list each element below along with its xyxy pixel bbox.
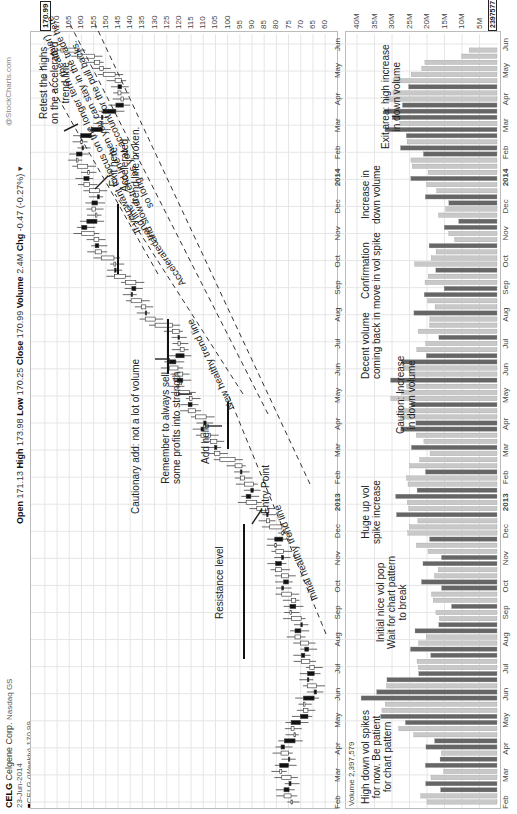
- price-tick: 90: [247, 20, 256, 29]
- volume-tick: 35M: [370, 13, 379, 29]
- x-tick: Feb: [333, 795, 342, 809]
- price-tick: 160: [76, 16, 85, 29]
- x-tick: Apr: [501, 742, 510, 754]
- x-tick: Mar: [333, 118, 342, 132]
- x-tick: 2014: [501, 169, 510, 187]
- x-tick: May: [333, 63, 342, 78]
- x-tick: Feb: [333, 146, 342, 160]
- x-tick: Oct: [333, 255, 342, 267]
- volume-tick: 15M: [440, 13, 449, 29]
- price-tick: 120: [174, 16, 183, 29]
- x-tick: Feb: [501, 795, 510, 809]
- price-tick: 100: [223, 16, 232, 29]
- x-tick: Mar: [501, 768, 510, 782]
- note-vol-caution: Caution: Increasein down volume: [395, 356, 417, 434]
- x-tick: Dec: [333, 199, 342, 213]
- volume-tick: 10M: [457, 13, 466, 29]
- note-vol-initial: Initial nice vol popWait for chart patte…: [375, 556, 408, 649]
- x-tick: Aug: [501, 307, 510, 321]
- price-tick: 110: [198, 16, 207, 29]
- x-tick: 2013: [333, 493, 342, 511]
- price-tick: 125: [162, 16, 171, 29]
- x-tick: Sep: [501, 280, 510, 294]
- x-tick: Dec: [501, 199, 510, 213]
- x-tick: Oct: [333, 580, 342, 592]
- note-vol-increase-down: Increase indown volume: [360, 165, 382, 224]
- note-vol-high-down: High down vol spikesfor now. Be patientf…: [360, 710, 393, 804]
- x-tick: May: [333, 713, 342, 728]
- volume-tick: 40M: [352, 13, 361, 29]
- x-tick: Jun: [501, 363, 510, 376]
- price-tick: 140: [125, 16, 134, 29]
- x-tick: Jul: [333, 663, 342, 673]
- x-tick: May: [501, 388, 510, 403]
- x-tick: Jun: [333, 38, 342, 51]
- x-tick: Mar: [501, 118, 510, 132]
- x-tick: Mar: [501, 443, 510, 457]
- note-vol-decent: Decent volumecoming back in: [360, 312, 382, 379]
- x-tick: Mar: [333, 443, 342, 457]
- note-remember: Remember to always sellsome profits into…: [160, 372, 182, 484]
- x-tick: May: [501, 63, 510, 78]
- x-tick: Nov: [501, 551, 510, 565]
- price-tick: 85: [259, 20, 268, 29]
- volume-tick: 5M: [475, 18, 484, 29]
- volume-label: Volume 2,397,579: [347, 742, 356, 807]
- chart-svg: [0, 0, 517, 814]
- price-tick: 75: [284, 20, 293, 29]
- chart-canvas: CELG Celgene Corp. Nasdaq GS 23-Jun-2014…: [0, 0, 517, 814]
- price-tick: 70: [296, 20, 305, 29]
- x-tick: Jul: [501, 663, 510, 673]
- x-tick: Nov: [333, 226, 342, 240]
- x-tick: Nov: [501, 226, 510, 240]
- x-tick: Nov: [333, 551, 342, 565]
- note-vol-huge: Huge up volspike increase: [360, 480, 382, 544]
- volume-tick: 25M: [405, 13, 414, 29]
- note-vol-confirmation: Confirmationmove in vol spike: [360, 232, 382, 309]
- x-tick: Apr: [333, 93, 342, 105]
- x-tick: Apr: [501, 418, 510, 430]
- x-tick: Jun: [333, 363, 342, 376]
- price-tick: 145: [113, 16, 122, 29]
- price-tick: 80: [271, 20, 280, 29]
- x-tick: Apr: [333, 418, 342, 430]
- note-add-here: Add here: [200, 423, 211, 464]
- x-tick: Dec: [333, 524, 342, 538]
- x-tick: Aug: [333, 307, 342, 321]
- price-tick: 60: [320, 20, 329, 29]
- x-tick: Sep: [333, 280, 342, 294]
- x-tick: Aug: [501, 632, 510, 646]
- price-tick: 135: [137, 16, 146, 29]
- x-tick: May: [333, 388, 342, 403]
- price-tick: 95: [235, 20, 244, 29]
- x-tick: Oct: [501, 580, 510, 592]
- x-tick: Jul: [333, 339, 342, 349]
- x-tick: 2014: [333, 169, 342, 187]
- x-tick: Feb: [333, 470, 342, 484]
- x-tick: Dec: [501, 524, 510, 538]
- x-tick: Oct: [501, 255, 510, 267]
- volume-tick: 30M: [387, 13, 396, 29]
- x-tick: Jun: [333, 688, 342, 701]
- x-tick: Aug: [333, 632, 342, 646]
- x-tick: Jun: [501, 688, 510, 701]
- x-tick: May: [501, 713, 510, 728]
- volume-tick: 20M: [422, 13, 431, 29]
- x-tick: Apr: [501, 93, 510, 105]
- note-entry-point: Entry Point: [260, 465, 271, 514]
- x-tick: Jul: [501, 339, 510, 349]
- x-tick: Apr: [333, 742, 342, 754]
- last-volume-badge: 2397577: [488, 0, 497, 31]
- price-tick: 105: [210, 16, 219, 29]
- price-tick: 155: [89, 16, 98, 29]
- x-tick: Sep: [333, 605, 342, 619]
- x-tick: Sep: [501, 605, 510, 619]
- x-tick: Mar: [333, 768, 342, 782]
- x-tick: 2013: [501, 493, 510, 511]
- price-tick: 130: [150, 16, 159, 29]
- note-vol-exit-area: Exit area: high increasein down volume: [380, 44, 402, 149]
- x-tick: Jun: [501, 38, 510, 51]
- price-tick: 150: [101, 16, 110, 29]
- x-tick: Feb: [501, 146, 510, 160]
- note-resistance: Resistance level: [214, 546, 225, 619]
